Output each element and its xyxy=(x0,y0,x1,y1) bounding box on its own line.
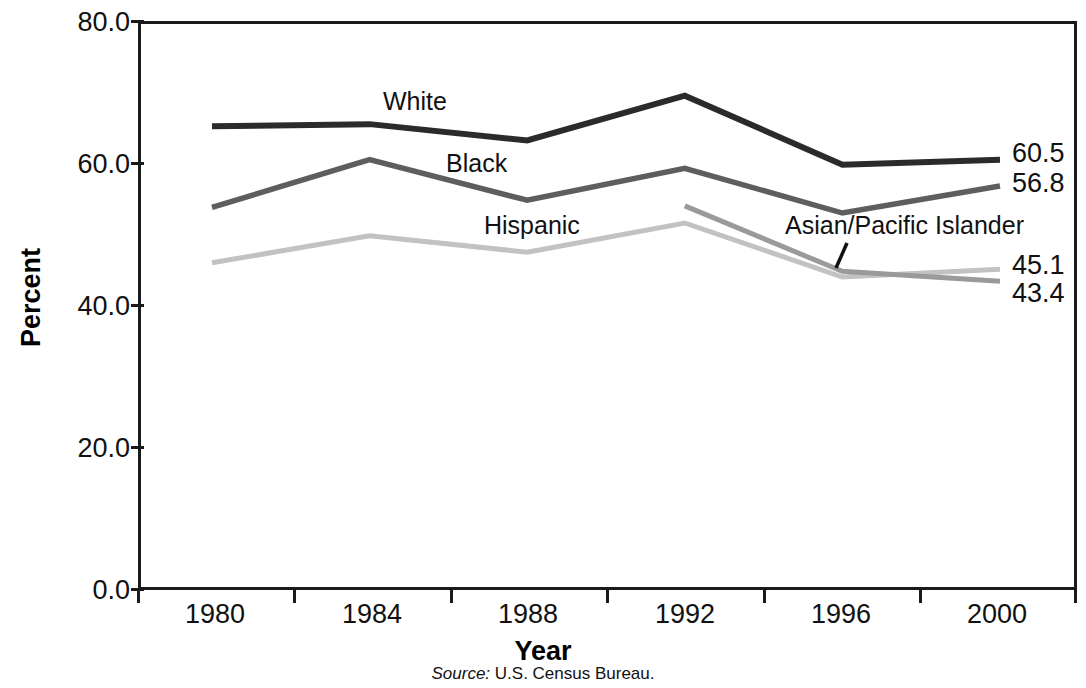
x-tick-mark-3 xyxy=(606,590,609,603)
x-tick-label-1996: 1996 xyxy=(781,599,901,630)
y-tick-mark-40 xyxy=(131,304,144,307)
y-axis-title: Percent xyxy=(16,238,47,358)
series-label-asian-pacific-islander: Asian/Pacific Islander xyxy=(785,211,1024,240)
chart-page: 80.0 60.0 40.0 20.0 0.0 Percent 1980 198… xyxy=(0,0,1086,688)
x-tick-mark-1 xyxy=(293,590,296,603)
x-tick-mark-2 xyxy=(450,590,453,603)
value-label-asian-pacific-islander: 43.4 xyxy=(1012,278,1065,309)
y-tick-mark-80 xyxy=(131,20,144,23)
value-label-white: 60.5 xyxy=(1012,138,1065,169)
x-tick-label-1984: 1984 xyxy=(312,599,432,630)
x-tick-mark-6 xyxy=(1074,590,1077,603)
y-tick-label-40: 40.0 xyxy=(58,291,130,322)
x-axis-title: Year xyxy=(0,636,1086,667)
value-label-black: 56.8 xyxy=(1012,168,1065,199)
value-label-hispanic: 45.1 xyxy=(1012,250,1065,281)
y-tick-mark-60 xyxy=(131,162,144,165)
x-tick-mark-5 xyxy=(919,590,922,603)
y-tick-label-20: 20.0 xyxy=(58,433,130,464)
series-label-hispanic: Hispanic xyxy=(484,211,580,240)
series-label-black: Black xyxy=(446,149,507,178)
source-note: Source: U.S. Census Bureau. xyxy=(0,664,1086,684)
x-tick-label-1988: 1988 xyxy=(468,599,588,630)
y-tick-label-0: 0.0 xyxy=(58,575,130,606)
y-tick-label-60: 60.0 xyxy=(58,149,130,180)
source-label: Source: xyxy=(431,664,490,683)
source-text: U.S. Census Bureau. xyxy=(495,664,655,683)
x-tick-mark-4 xyxy=(763,590,766,603)
x-tick-label-1980: 1980 xyxy=(155,599,275,630)
plot-area-frame xyxy=(138,21,1077,590)
x-tick-label-2000: 2000 xyxy=(937,599,1057,630)
series-label-white: White xyxy=(383,87,447,116)
x-tick-label-1992: 1992 xyxy=(625,599,745,630)
x-tick-mark-0 xyxy=(137,590,140,603)
y-tick-label-80: 80.0 xyxy=(58,7,130,38)
y-tick-mark-20 xyxy=(131,446,144,449)
